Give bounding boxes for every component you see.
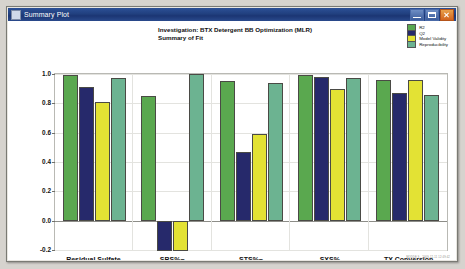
- chart-title: Investigation: BTX Detergent BB Optimiza…: [158, 26, 312, 34]
- bar-group: [369, 74, 447, 250]
- bar-slot: [424, 74, 439, 250]
- bar-slot: [298, 74, 313, 250]
- legend-label: R2: [419, 25, 425, 30]
- bar[interactable]: [236, 152, 251, 221]
- bar-group-bars: [212, 74, 290, 250]
- legend-label: Q2: [419, 31, 425, 36]
- bar-group: [55, 74, 133, 250]
- chart-title-block: Investigation: BTX Detergent BB Optimiza…: [158, 26, 312, 42]
- y-axis-tick-label: 1.0: [42, 71, 51, 77]
- bar[interactable]: [298, 75, 313, 220]
- bar[interactable]: [424, 95, 439, 221]
- bar[interactable]: [157, 221, 172, 252]
- bar[interactable]: [111, 78, 126, 220]
- bar[interactable]: [376, 80, 391, 221]
- bar-group-bars: [369, 74, 447, 250]
- window-titlebar[interactable]: Summary Plot: [8, 8, 456, 21]
- bar-group: [290, 74, 368, 250]
- bar-slot: [236, 74, 251, 250]
- bar[interactable]: [252, 134, 267, 221]
- bar[interactable]: [63, 75, 78, 220]
- plot-canvas: Investigation: BTX Detergent BB Optimiza…: [8, 21, 456, 260]
- footer-stamp: MODDE 9 - 2009-12-11 12:49:42: [406, 256, 450, 259]
- y-axis-tick-label: 0.6: [42, 130, 51, 136]
- bar[interactable]: [314, 77, 329, 221]
- window-controls: [410, 9, 454, 21]
- chart-subtitle: Summary of Fit: [158, 34, 312, 42]
- bar-slot: [63, 74, 78, 250]
- x-axis-category-label: SBS%~: [133, 255, 212, 260]
- bar-group-bars: [290, 74, 368, 250]
- legend-swatch: [407, 41, 416, 48]
- bar-group-bars: [55, 74, 133, 250]
- bar-group: [133, 74, 211, 250]
- legend-item: Reproducibility: [407, 42, 448, 48]
- bar[interactable]: [268, 83, 283, 221]
- bar-group: [212, 74, 290, 250]
- bar-slot: [79, 74, 94, 250]
- bar[interactable]: [95, 102, 110, 221]
- close-button[interactable]: [440, 9, 454, 21]
- bar-slot: [111, 74, 126, 250]
- gridline: [55, 250, 447, 251]
- bar-slot: [376, 74, 391, 250]
- x-axis-category-label: Residual Sulfate: [54, 255, 133, 260]
- bar-slot: [314, 74, 329, 250]
- maximize-button[interactable]: [425, 9, 439, 21]
- bar-group-bars: [133, 74, 211, 250]
- bar-slot: [220, 74, 235, 250]
- bar[interactable]: [392, 93, 407, 221]
- y-tick-mark: [52, 250, 55, 251]
- plot-window-icon: [11, 10, 21, 20]
- bar-slot: [392, 74, 407, 250]
- y-axis-tick-label: 0.0: [42, 218, 51, 224]
- bar-slot: [252, 74, 267, 250]
- bar-slot: [330, 74, 345, 250]
- bar-slot: [141, 74, 156, 250]
- bar[interactable]: [189, 74, 204, 221]
- bar[interactable]: [330, 89, 345, 221]
- y-axis-tick-label: -0.2: [40, 247, 51, 253]
- plot-area: 1.00.80.60.40.20.0-0.2: [54, 73, 448, 251]
- bar[interactable]: [220, 81, 235, 220]
- bar-groups: [55, 74, 447, 250]
- bar-slot: [408, 74, 423, 250]
- x-axis-labels: Residual SulfateSBS%~STS%~SXS%TX Convers…: [54, 255, 448, 260]
- legend-label: Model Validity: [419, 36, 446, 41]
- chart-legend: R2Q2Model ValidityReproducibility: [407, 25, 448, 47]
- window-title: Summary Plot: [24, 11, 410, 19]
- y-axis-tick-label: 0.2: [42, 188, 51, 194]
- bar-slot: [95, 74, 110, 250]
- bar-slot: [346, 74, 361, 250]
- summary-plot-window: Summary Plot Investigation: BTX Detergen…: [6, 6, 458, 262]
- legend-label: Reproducibility: [419, 42, 448, 47]
- bar-slot: [173, 74, 188, 250]
- y-axis-tick-label: 0.8: [42, 100, 51, 106]
- x-axis-category-label: SXS%: [290, 255, 369, 260]
- bar[interactable]: [173, 221, 188, 252]
- bar-slot: [189, 74, 204, 250]
- bar[interactable]: [408, 80, 423, 221]
- bar-slot: [157, 74, 172, 250]
- bar[interactable]: [79, 87, 94, 220]
- bar[interactable]: [346, 78, 361, 220]
- bar-slot: [268, 74, 283, 250]
- bar[interactable]: [141, 96, 156, 221]
- minimize-button[interactable]: [410, 9, 424, 21]
- x-axis-category-label: STS%~: [212, 255, 291, 260]
- y-axis-tick-label: 0.4: [42, 159, 51, 165]
